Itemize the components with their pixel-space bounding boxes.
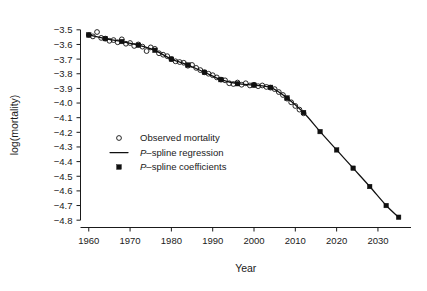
x-axis-title: Year — [235, 262, 257, 274]
x-tick-label: 1970 — [120, 235, 141, 246]
y-tick-label: −4.3 — [54, 141, 73, 152]
x-tick-label: 1990 — [202, 235, 223, 246]
y-tick-label: −4.0 — [54, 97, 73, 108]
y-tick-label: −3.7 — [54, 54, 73, 65]
coefficient-point — [351, 166, 356, 171]
coefficient-point — [136, 43, 141, 48]
legend-label: Observed mortality — [140, 132, 220, 143]
coefficient-point — [86, 33, 91, 38]
y-tick-label: −4.2 — [54, 127, 73, 138]
y-axis-title: log(mortality) — [8, 95, 20, 156]
x-tick-label: 1980 — [161, 235, 182, 246]
y-tick-label: −4.5 — [54, 171, 73, 182]
coefficient-point — [367, 184, 372, 189]
coefficient-point — [103, 36, 108, 41]
coefficient-point — [120, 39, 125, 44]
legend-label-text: –spline regression — [146, 147, 223, 158]
y-tick-label: −3.8 — [54, 68, 73, 79]
coefficient-point — [169, 57, 174, 62]
coefficient-point — [318, 129, 323, 134]
coefficient-point — [186, 63, 191, 68]
coefficient-point — [252, 83, 257, 88]
coefficient-point — [219, 77, 224, 82]
y-tick-label: −3.6 — [54, 39, 73, 50]
x-tick-label: 2030 — [367, 235, 388, 246]
x-tick-label: 1960 — [78, 235, 99, 246]
y-tick-label: −4.6 — [54, 185, 73, 196]
coefficient-point — [301, 110, 306, 115]
y-tick-label: −4.4 — [54, 156, 73, 167]
coefficient-point — [285, 96, 290, 101]
coefficient-point — [235, 81, 240, 86]
coefficient-point — [334, 148, 339, 153]
coefficient-point — [202, 70, 207, 75]
coefficient-point — [396, 215, 401, 220]
coefficient-point — [384, 203, 389, 208]
legend-label: P–spline regression — [140, 147, 223, 158]
x-tick-label: 2020 — [326, 235, 347, 246]
legend-filled-square-icon — [117, 165, 122, 170]
y-tick-label: −4.7 — [54, 200, 73, 211]
chart-figure: −3.5−3.6−3.7−3.8−3.9−4.0−4.1−4.2−4.3−4.4… — [0, 0, 427, 291]
legend-label: P–spline coefficients — [140, 161, 227, 172]
coefficient-point — [153, 48, 158, 53]
legend-label-text: –spline coefficients — [146, 161, 226, 172]
y-tick-label: −3.5 — [54, 24, 73, 35]
mortality-pspline-chart: −3.5−3.6−3.7−3.8−3.9−4.0−4.1−4.2−4.3−4.4… — [0, 0, 427, 291]
y-tick-label: −4.8 — [54, 215, 73, 226]
y-tick-label: −4.1 — [54, 112, 73, 123]
y-tick-label: −3.9 — [54, 83, 73, 94]
coefficient-point — [268, 85, 273, 90]
x-tick-label: 2010 — [285, 235, 306, 246]
x-tick-label: 2000 — [243, 235, 264, 246]
